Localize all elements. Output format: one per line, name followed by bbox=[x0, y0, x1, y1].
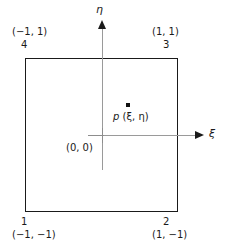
corner-label-bottom-right: 2 (1, −1) bbox=[152, 216, 187, 241]
corner-label-top-right: (1, 1) 3 bbox=[152, 26, 179, 51]
isoparametric-element-diagram: η ξ (0, 0) p (ξ, η) (−1, 1) 4 (1, 1) 3 1… bbox=[0, 0, 230, 248]
corner-4-coords: (−1, 1) bbox=[12, 26, 47, 39]
corner-3-node-number: 3 bbox=[163, 39, 179, 52]
eta-axis-line bbox=[102, 22, 103, 170]
point-p-coords: (ξ, η) bbox=[123, 111, 149, 122]
eta-axis-arrowhead bbox=[98, 20, 106, 29]
corner-1-node-number: 1 bbox=[21, 216, 56, 229]
point-p-name: p bbox=[113, 111, 119, 122]
corner-1-coords: (−1, −1) bbox=[12, 229, 56, 242]
corner-2-coords: (1, −1) bbox=[152, 229, 187, 242]
point-p-label: p (ξ, η) bbox=[113, 111, 149, 122]
origin-tick-vertical bbox=[102, 128, 103, 143]
xi-axis-arrowhead bbox=[195, 131, 204, 139]
corner-label-top-left: (−1, 1) 4 bbox=[12, 26, 47, 51]
eta-axis-label: η bbox=[96, 4, 103, 15]
xi-axis-label: ξ bbox=[209, 128, 215, 139]
origin-label: (0, 0) bbox=[66, 142, 93, 153]
corner-4-node-number: 4 bbox=[21, 39, 47, 52]
point-p-marker bbox=[126, 103, 130, 107]
corner-label-bottom-left: 1 (−1, −1) bbox=[12, 216, 56, 241]
corner-2-node-number: 2 bbox=[163, 216, 187, 229]
xi-axis-line bbox=[93, 135, 196, 136]
corner-3-coords: (1, 1) bbox=[152, 26, 179, 39]
